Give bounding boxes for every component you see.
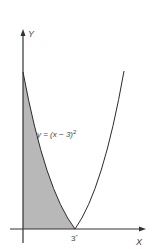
shaded-area [23, 72, 75, 229]
x-axis-arrow-icon [139, 227, 146, 232]
parabola-plot: Y X 3″ y = (x − 3)2 [0, 0, 159, 249]
y-axis-label: Y [28, 29, 35, 39]
equation-exponent: 2 [73, 129, 77, 135]
x-tick-mark: ″ [75, 234, 78, 240]
y-axis-arrow-icon [21, 29, 26, 36]
curve-equation-label: y = (x − 3)2 [36, 129, 77, 139]
x-axis-label: X [135, 237, 143, 247]
x-tick-label-3: 3″ [71, 234, 78, 243]
equation-text: y = (x − 3) [36, 130, 73, 139]
